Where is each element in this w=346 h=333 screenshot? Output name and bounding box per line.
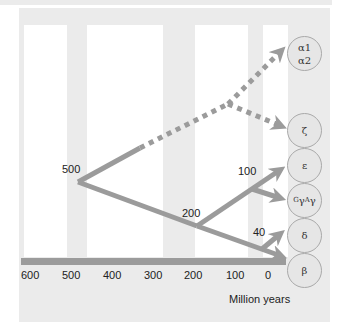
gene-alpha: α1 α2 (287, 36, 322, 71)
epsilon-branch (197, 170, 280, 226)
gene-label-epsilon: ε (302, 159, 307, 172)
gene-gamma: GγAγ (287, 183, 322, 218)
node-label-40: 40 (253, 226, 265, 238)
tick-200: 200 (184, 269, 202, 281)
tick-100: 100 (226, 269, 244, 281)
tick-400: 400 (103, 269, 121, 281)
gamma-symbol: γ (310, 194, 316, 207)
tick-0: 0 (265, 269, 271, 281)
gene-beta: β (287, 253, 322, 288)
gene-label-alpha1: α1 (298, 41, 311, 54)
tick-300: 300 (144, 269, 162, 281)
gene-label-beta: β (302, 264, 308, 277)
gene-label-alpha2: α2 (298, 54, 311, 67)
gene-label-zeta: ζ (302, 124, 307, 137)
zeta-branch (228, 104, 281, 126)
node-label-500: 500 (62, 163, 80, 175)
tick-500: 500 (62, 269, 80, 281)
gene-label-delta: δ (301, 229, 307, 242)
node-label-200: 200 (182, 207, 200, 219)
axis-unit-label: Million years (229, 293, 290, 305)
gamma-branch (252, 189, 280, 198)
tick-600: 600 (21, 269, 39, 281)
gene-delta: δ (287, 218, 322, 253)
gene-zeta: ζ (287, 113, 322, 148)
gene-epsilon: ε (287, 148, 322, 183)
alpha-branch (228, 51, 281, 104)
node-label-100: 100 (238, 165, 256, 177)
